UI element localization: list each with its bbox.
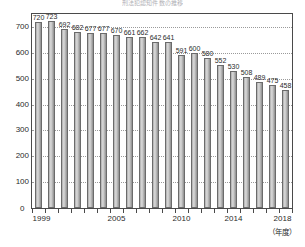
bar-value-label: 661	[124, 29, 136, 36]
x-axis-tick	[149, 209, 150, 213]
bar-value-label: 600	[189, 45, 201, 52]
bar	[204, 58, 211, 208]
x-axis-tick	[162, 209, 163, 213]
bar-value-label: 489	[254, 74, 266, 81]
bar	[178, 55, 185, 208]
bar	[35, 22, 42, 208]
bar-group: 723	[48, 14, 55, 208]
bar-value-label: 662	[137, 29, 149, 36]
chart-page: 刑法犯認知件数の推移 100200300400500600700 7207236…	[0, 0, 305, 247]
bar-value-label: 642	[150, 34, 162, 41]
bar-group: 489	[256, 14, 263, 208]
bar-value-label: 641	[163, 34, 175, 41]
x-axis-tick	[136, 209, 137, 213]
bar-value-label: 720	[33, 14, 45, 21]
bar	[126, 37, 133, 208]
bar-group: 682	[74, 14, 81, 208]
bar	[243, 77, 250, 208]
bar-group: 591	[178, 14, 185, 208]
y-axis-tick-label: 200	[3, 152, 29, 160]
y-axis-tick-label: 400	[3, 101, 29, 109]
y-axis-tick-label: 600	[3, 49, 29, 57]
bar-value-label: 591	[176, 47, 188, 54]
y-axis: 100200300400500600700	[0, 13, 29, 209]
y-axis-tick-label: 700	[3, 23, 29, 31]
x-axis-unit-label: （年度）	[268, 228, 296, 237]
chart-title: 刑法犯認知件数の推移	[0, 0, 305, 7]
x-axis-tick	[58, 209, 59, 213]
bar	[217, 65, 224, 208]
bar	[152, 42, 159, 208]
x-axis-tick	[214, 209, 215, 213]
bar-group: 670	[113, 14, 120, 208]
bar-value-label: 723	[46, 13, 58, 20]
bar	[165, 42, 172, 208]
bar-group: 580	[204, 14, 211, 208]
x-axis-tick	[32, 209, 33, 213]
bar-value-label: 508	[241, 69, 253, 76]
bar	[113, 35, 120, 208]
bar-value-label: 682	[72, 24, 84, 31]
bar-value-label: 530	[228, 63, 240, 70]
x-axis-tick-label: 2014	[225, 214, 243, 223]
bar-group: 661	[126, 14, 133, 208]
x-axis-tick-label: 2018	[274, 214, 292, 223]
bar-group: 600	[191, 14, 198, 208]
x-axis-tick	[227, 209, 228, 213]
x-axis-tick	[175, 209, 176, 213]
bar-group: 677	[87, 14, 94, 208]
bar	[100, 33, 107, 208]
x-axis-tick	[188, 209, 189, 213]
x-axis-tick-label: 2010	[173, 214, 191, 223]
bar	[74, 32, 81, 208]
bar-group: 692	[61, 14, 68, 208]
x-axis-tick	[45, 209, 46, 213]
bar	[282, 90, 289, 208]
x-axis: 19992005201020142018	[32, 214, 292, 226]
bar-group: 677	[100, 14, 107, 208]
bar-group: 552	[217, 14, 224, 208]
x-axis-tick-label: 2005	[108, 214, 126, 223]
bar-group: 475	[269, 14, 276, 208]
bar-group: 530	[230, 14, 237, 208]
x-axis-tick	[97, 209, 98, 213]
bar-value-label: 670	[111, 27, 123, 34]
bar-value-label: 677	[98, 25, 110, 32]
bar	[269, 85, 276, 208]
x-axis-tick	[123, 209, 124, 213]
y-axis-tick-label: 300	[3, 126, 29, 134]
bar	[256, 82, 263, 208]
x-axis-tick-label: 1999	[33, 214, 51, 223]
bar	[61, 29, 68, 208]
bar	[87, 33, 94, 208]
bar-value-label: 692	[59, 21, 71, 28]
bar-group: 662	[139, 14, 146, 208]
bar-group: 641	[165, 14, 172, 208]
y-axis-tick-label: 500	[3, 75, 29, 83]
bar	[191, 53, 198, 208]
bar-series: 7207236926826776776706616626426415916005…	[32, 14, 292, 208]
bar-value-label: 677	[85, 25, 97, 32]
y-axis-origin-label: 0	[20, 205, 24, 213]
x-axis-tick	[279, 209, 280, 213]
x-axis-tick	[110, 209, 111, 213]
bar-value-label: 458	[280, 82, 292, 89]
bar-group: 458	[282, 14, 289, 208]
bar-group: 642	[152, 14, 159, 208]
x-axis-tick	[84, 209, 85, 213]
x-axis-tick	[266, 209, 267, 213]
bar-value-label: 552	[215, 57, 227, 64]
x-axis-tick	[292, 209, 293, 213]
bar	[230, 71, 237, 208]
bar	[48, 21, 55, 208]
x-axis-tick	[201, 209, 202, 213]
bar	[139, 37, 146, 208]
bar-group: 508	[243, 14, 250, 208]
y-axis-tick-label: 100	[3, 178, 29, 186]
x-axis-tick	[253, 209, 254, 213]
x-axis-tick	[240, 209, 241, 213]
bar-value-label: 580	[202, 50, 214, 57]
bar-group: 720	[35, 14, 42, 208]
bar-value-label: 475	[267, 77, 279, 84]
x-axis-tick	[71, 209, 72, 213]
